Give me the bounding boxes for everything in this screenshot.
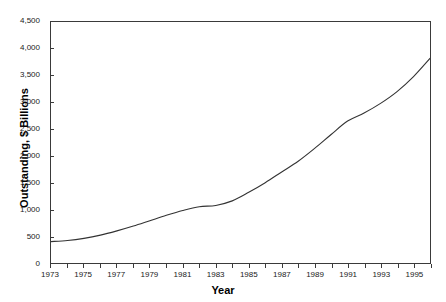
x-axis-tick-mark [199,264,200,268]
x-axis-tick-mark [100,264,101,268]
y-axis-tick-label: 3,500 [20,71,40,79]
x-axis-tick-label: 1977 [100,270,132,279]
x-axis-tick-mark [298,264,299,268]
y-axis-tick-mark [50,156,54,157]
chart-figure: Outstanding, $ Billions 05001,0001,5002,… [0,0,446,302]
x-axis-tick-mark [348,264,349,268]
y-axis-tick-label: 500 [27,233,40,241]
x-axis-tick-label: 1989 [299,270,331,279]
y-axis-tick-mark [50,48,54,49]
y-axis-tick-mark [50,129,54,130]
x-axis-tick-mark [116,264,117,268]
plot-area [50,21,431,264]
x-axis-tick-mark [265,264,266,268]
x-axis-tick-mark [149,264,150,268]
y-axis-tick-mark [50,102,54,103]
x-axis-title: Year [0,284,446,296]
x-axis-tick-mark [216,264,217,268]
x-axis-tick-mark [232,264,233,268]
x-axis-tick-mark [414,264,415,268]
x-axis-tick-mark [381,264,382,268]
x-axis-tick-label: 1983 [200,270,232,279]
x-axis-tick-mark [315,264,316,268]
series-path [51,58,430,241]
y-axis-tick-label: 4,500 [20,17,40,25]
x-axis-tick-mark [183,264,184,268]
y-axis-tick-label: 3,000 [20,98,40,106]
y-axis-tick-label: 2,500 [20,125,40,133]
x-axis-tick-label: 1975 [67,270,99,279]
x-axis-tick-label: 1987 [266,270,298,279]
chart-title [0,0,446,1]
y-axis-tick-label: 2,000 [20,152,40,160]
x-axis-tick-mark [50,264,51,268]
y-axis-tick-label: 0 [36,260,40,268]
x-axis-tick-mark [282,264,283,268]
x-axis-tick-mark [365,264,366,268]
y-axis-tick-mark [50,75,54,76]
y-axis-tick-label: 1,000 [20,206,40,214]
y-axis-tick-mark [50,210,54,211]
x-axis-tick-label: 1973 [34,270,66,279]
y-axis-tick-mark [50,183,54,184]
x-axis-tick-label: 1985 [233,270,265,279]
x-axis-tick-mark [67,264,68,268]
data-series-line [51,22,430,263]
x-axis-tick-label: 1979 [133,270,165,279]
x-axis-tick-mark [398,264,399,268]
x-axis-tick-label: 1995 [398,270,430,279]
x-axis-tick-label: 1993 [365,270,397,279]
y-axis-tick-label: 1,500 [20,179,40,187]
x-axis-tick-mark [332,264,333,268]
x-axis-tick-mark [431,264,432,268]
x-axis-tick-mark [166,264,167,268]
x-axis-tick-mark [249,264,250,268]
x-axis-tick-label: 1981 [167,270,199,279]
y-axis-tick-mark [50,237,54,238]
x-axis-tick-mark [83,264,84,268]
x-axis-tick-label: 1991 [332,270,364,279]
y-axis-tick-label: 4,000 [20,44,40,52]
y-axis-tick-label-group: 05001,0001,5002,0002,5003,0003,5004,0004… [0,21,46,264]
x-axis-tick-mark [133,264,134,268]
